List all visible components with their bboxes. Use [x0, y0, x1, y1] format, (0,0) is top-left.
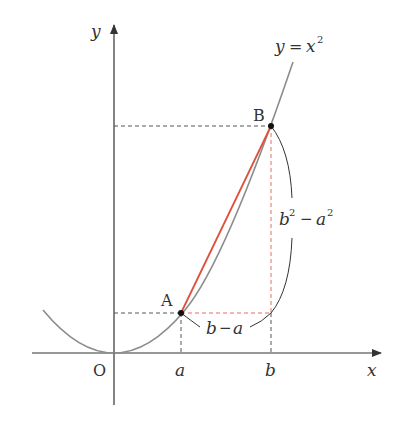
brace-vertical-label: b 2 − a 2	[279, 207, 333, 229]
y-axis-label: y	[90, 21, 101, 41]
svg-text:2: 2	[289, 207, 295, 218]
svg-text:=: =	[289, 37, 302, 56]
svg-text:a: a	[233, 318, 243, 338]
point-b-label: B	[253, 106, 265, 125]
svg-text:−: −	[219, 319, 232, 337]
svg-text:2: 2	[317, 34, 323, 45]
svg-text:b: b	[206, 318, 217, 338]
svg-text:2: 2	[327, 207, 333, 218]
tick-b-label: b	[265, 360, 276, 380]
secant-line-ab	[181, 126, 271, 313]
curve-label: y = x 2	[274, 34, 323, 56]
svg-text:x: x	[306, 36, 316, 56]
tick-a-label: a	[175, 360, 185, 380]
brace-horizontal-label: b − a	[206, 318, 243, 338]
x-axis-label: x	[367, 360, 377, 380]
point-b	[268, 123, 274, 129]
parabola-diagram: y x O a b A B y = x 2 b − a b 2 − a 2	[0, 0, 403, 421]
svg-text:a: a	[316, 209, 326, 229]
origin-label: O	[93, 361, 106, 380]
point-a-label: A	[160, 291, 173, 310]
svg-text:−: −	[300, 210, 313, 228]
svg-text:y: y	[274, 36, 285, 56]
point-a	[178, 310, 184, 316]
